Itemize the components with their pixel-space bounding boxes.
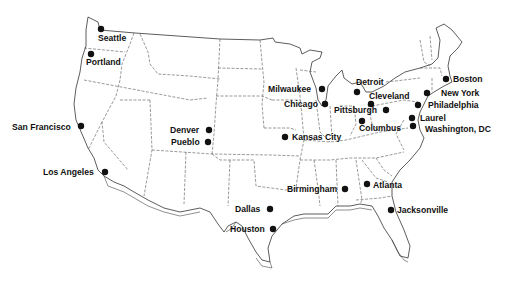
city-label: Denver <box>170 125 200 135</box>
city-dot-icon <box>267 206 273 212</box>
city-label: Houston <box>230 224 265 234</box>
city-label: Boston <box>453 74 483 84</box>
city-dot-icon <box>78 123 84 129</box>
city-dot-icon <box>388 207 394 213</box>
city-dot-icon <box>415 102 421 108</box>
us-map: SeattlePortlandSan FranciscoLos AngelesD… <box>0 0 507 282</box>
city-label: Washington, DC <box>425 124 491 134</box>
city-label: Pittsburgh <box>334 105 377 115</box>
city-label: Los Angeles <box>43 167 94 177</box>
city-washington-dc: Washington, DC <box>410 123 491 134</box>
city-dot-icon <box>282 134 288 140</box>
city-seattle: Seattle <box>98 26 127 43</box>
city-dot-icon <box>270 226 276 232</box>
city-dot-icon <box>383 107 389 113</box>
city-label: Jacksonville <box>397 205 448 215</box>
city-dot-icon <box>409 115 415 121</box>
city-dot-icon <box>98 26 104 32</box>
city-san-francisco: San Francisco <box>12 122 84 132</box>
us-outline <box>74 17 462 262</box>
city-label: Laurel <box>420 113 446 123</box>
city-dot-icon <box>205 139 211 145</box>
city-label: Milwaukee <box>268 84 311 94</box>
city-label: New York <box>441 88 480 98</box>
city-dot-icon <box>322 101 328 107</box>
city-label: Kansas City <box>292 132 341 142</box>
city-dot-icon <box>102 169 108 175</box>
city-label: Columbus <box>359 123 401 133</box>
city-label: San Francisco <box>12 122 71 132</box>
city-label: Portland <box>86 57 121 67</box>
city-label: Cleveland <box>369 91 410 101</box>
city-dot-icon <box>319 86 325 92</box>
city-jacksonville: Jacksonville <box>388 205 449 215</box>
city-label: Philadelphia <box>428 100 479 110</box>
city-label: Birmingham <box>287 184 337 194</box>
city-label: Dallas <box>235 204 261 214</box>
city-label: Detroit <box>356 77 384 87</box>
city-label: Pueblo <box>171 137 200 147</box>
city-dot-icon <box>410 123 416 129</box>
city-dot-icon <box>443 76 449 82</box>
city-label: Chicago <box>284 99 318 109</box>
city-dot-icon <box>424 90 430 96</box>
city-dot-icon <box>354 89 360 95</box>
city-label: Atlanta <box>373 180 402 190</box>
city-label: Seattle <box>98 33 126 43</box>
city-dot-icon <box>364 181 370 187</box>
city-dot-icon <box>342 186 348 192</box>
city-dot-icon <box>206 127 212 133</box>
